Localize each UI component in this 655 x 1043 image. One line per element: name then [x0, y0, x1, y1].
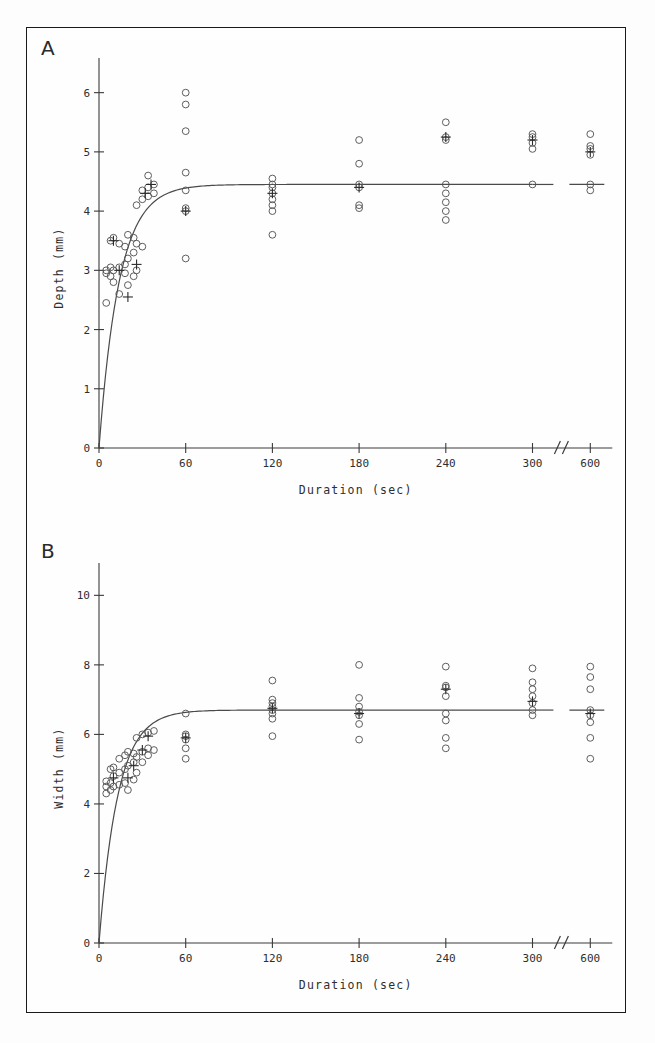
data-point — [130, 249, 137, 256]
data-point — [182, 169, 189, 176]
x-tick-label: 300 — [523, 457, 543, 470]
x-tick-label: 180 — [349, 457, 369, 470]
data-point — [125, 255, 132, 262]
data-point — [442, 710, 449, 717]
x-tick-label: 180 — [349, 952, 369, 965]
data-point — [356, 721, 363, 728]
data-point — [442, 217, 449, 224]
panel-a-plot: 0123456060120180240300600Depth (mm)Durat… — [27, 28, 627, 523]
data-point — [125, 282, 132, 289]
data-point — [122, 270, 129, 277]
y-tick-label: 0 — [83, 442, 90, 455]
data-point — [356, 661, 363, 668]
x-axis-title: Duration (sec) — [299, 978, 413, 992]
data-point — [182, 710, 189, 717]
data-point — [442, 717, 449, 724]
x-tick-label: 240 — [436, 952, 456, 965]
x-axis-title: Duration (sec) — [299, 483, 413, 497]
data-point — [182, 128, 189, 135]
y-tick-label: 3 — [83, 264, 90, 277]
x-tick-label: 600 — [580, 457, 600, 470]
data-point — [356, 137, 363, 144]
data-point — [587, 719, 594, 726]
data-point — [269, 733, 276, 740]
y-tick-label: 8 — [83, 659, 90, 672]
y-tick-label: 4 — [83, 205, 90, 218]
x-tick-label: 240 — [436, 457, 456, 470]
data-point — [145, 752, 152, 759]
y-tick-label: 2 — [83, 867, 90, 880]
y-tick-label: 6 — [83, 87, 90, 100]
data-point — [529, 686, 536, 693]
fit-curve — [99, 184, 533, 448]
data-point — [587, 663, 594, 670]
y-tick-label: 5 — [83, 146, 90, 159]
y-axis-title: Depth (mm) — [52, 227, 66, 308]
data-point — [442, 119, 449, 126]
data-point — [442, 734, 449, 741]
data-point — [442, 663, 449, 670]
data-point — [529, 665, 536, 672]
data-point — [587, 131, 594, 138]
x-tick-label: 60 — [179, 952, 192, 965]
data-point — [122, 243, 129, 250]
data-point — [145, 172, 152, 179]
data-point — [182, 755, 189, 762]
data-point — [269, 677, 276, 684]
data-point — [125, 787, 132, 794]
data-point — [442, 745, 449, 752]
data-point — [103, 790, 110, 797]
data-point — [587, 674, 594, 681]
y-tick-label: 0 — [83, 937, 90, 950]
data-point — [133, 202, 140, 209]
panel-a: A 0123456060120180240300600Depth (mm)Dur… — [27, 28, 627, 523]
data-point — [130, 776, 137, 783]
x-tick-label: 0 — [96, 457, 103, 470]
fit-curve — [99, 710, 533, 943]
y-axis-title: Width (mm) — [52, 727, 66, 808]
data-point — [269, 231, 276, 238]
figure-border-frame: A 0123456060120180240300600Depth (mm)Dur… — [26, 27, 626, 1013]
data-point — [356, 736, 363, 743]
data-point — [139, 759, 146, 766]
data-point — [182, 101, 189, 108]
data-point — [182, 745, 189, 752]
data-point — [442, 190, 449, 197]
data-point — [529, 679, 536, 686]
data-point — [139, 243, 146, 250]
x-tick-label: 120 — [262, 457, 282, 470]
x-tick-label: 120 — [262, 952, 282, 965]
data-point — [356, 695, 363, 702]
data-point — [587, 734, 594, 741]
y-tick-label: 4 — [83, 798, 90, 811]
data-point — [110, 279, 117, 286]
data-point — [356, 160, 363, 167]
data-point — [182, 89, 189, 96]
x-tick-label: 60 — [179, 457, 192, 470]
data-point — [103, 778, 110, 785]
y-tick-label: 10 — [77, 589, 90, 602]
y-tick-label: 2 — [83, 324, 90, 337]
data-point — [182, 255, 189, 262]
figure-container: A 0123456060120180240300600Depth (mm)Dur… — [0, 0, 655, 1043]
data-point — [587, 755, 594, 762]
data-point — [587, 686, 594, 693]
data-point — [442, 199, 449, 206]
data-point — [151, 190, 158, 197]
panel-b: B 0246810060120180240300600Width (mm)Dur… — [27, 523, 627, 1012]
panel-b-plot: 0246810060120180240300600Width (mm)Durat… — [27, 523, 627, 1012]
data-point — [103, 300, 110, 307]
y-tick-label: 1 — [83, 383, 90, 396]
data-point — [442, 208, 449, 215]
x-tick-label: 600 — [580, 952, 600, 965]
y-tick-label: 6 — [83, 728, 90, 741]
x-tick-label: 0 — [96, 952, 103, 965]
x-tick-label: 300 — [523, 952, 543, 965]
